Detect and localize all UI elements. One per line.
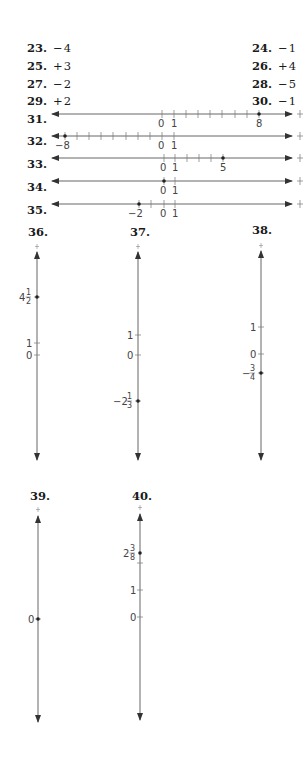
number-line-34: 0 1 bbox=[52, 177, 303, 196]
svg-text:−2: −2 bbox=[113, 396, 128, 407]
svg-text:0: 0 bbox=[160, 208, 166, 219]
point-0 bbox=[162, 179, 166, 183]
svg-text:−8: −8 bbox=[55, 140, 70, 151]
number-line-31: 0 1 8 bbox=[52, 110, 303, 129]
svg-text:4: 4 bbox=[19, 292, 25, 303]
number-line-40: 2 3 8 1 0 bbox=[123, 505, 143, 720]
svg-text:0: 0 bbox=[158, 118, 164, 129]
number-line-36: 4 1 2 1 0 bbox=[19, 244, 40, 460]
svg-text:3: 3 bbox=[130, 544, 135, 553]
number-line-32: −8 0 1 bbox=[52, 132, 303, 151]
number-line-35: −2 0 1 bbox=[52, 200, 303, 219]
svg-text:8: 8 bbox=[256, 118, 262, 129]
number-line-38: − 3 4 1 0 bbox=[242, 243, 264, 460]
point-4-1-2 bbox=[35, 295, 39, 299]
svg-text:0: 0 bbox=[160, 162, 166, 173]
svg-text:0: 0 bbox=[160, 185, 166, 196]
number-line-37: −2 1 3 1 0 bbox=[113, 244, 141, 460]
svg-text:2: 2 bbox=[26, 297, 31, 306]
point-neg-8 bbox=[63, 134, 67, 138]
point-5 bbox=[221, 156, 225, 160]
svg-text:0: 0 bbox=[250, 349, 256, 360]
point-neg-3-4 bbox=[259, 371, 263, 375]
svg-text:1: 1 bbox=[130, 585, 136, 596]
svg-text:0: 0 bbox=[127, 350, 133, 361]
svg-text:8: 8 bbox=[130, 553, 135, 562]
svg-text:3: 3 bbox=[250, 364, 255, 373]
svg-text:0: 0 bbox=[158, 140, 164, 151]
svg-text:−2: −2 bbox=[128, 208, 143, 219]
svg-text:1: 1 bbox=[26, 288, 31, 297]
svg-text:5: 5 bbox=[220, 162, 226, 173]
svg-text:1: 1 bbox=[26, 338, 32, 349]
svg-text:1: 1 bbox=[171, 140, 177, 151]
number-line-39: 0 bbox=[28, 507, 41, 722]
point-2-3-8 bbox=[138, 551, 142, 555]
number-line-33: 0 1 5 bbox=[52, 154, 303, 173]
svg-text:4: 4 bbox=[250, 373, 255, 382]
number-lines-figure: 0 1 8 −8 0 1 0 1 5 bbox=[0, 0, 303, 762]
svg-text:1: 1 bbox=[127, 392, 132, 401]
point-0 bbox=[36, 617, 40, 621]
svg-text:3: 3 bbox=[127, 401, 132, 410]
svg-text:0: 0 bbox=[28, 614, 34, 625]
svg-text:1: 1 bbox=[171, 118, 177, 129]
svg-text:1: 1 bbox=[172, 185, 178, 196]
svg-text:1: 1 bbox=[172, 162, 178, 173]
svg-text:0: 0 bbox=[26, 350, 32, 361]
point-neg-2 bbox=[137, 202, 141, 206]
point-8 bbox=[257, 112, 261, 116]
svg-text:1: 1 bbox=[127, 330, 133, 341]
svg-text:2: 2 bbox=[123, 548, 129, 559]
svg-text:1: 1 bbox=[250, 322, 256, 333]
svg-text:1: 1 bbox=[172, 208, 178, 219]
point-neg-2-1-3 bbox=[136, 399, 140, 403]
svg-text:0: 0 bbox=[130, 612, 136, 623]
